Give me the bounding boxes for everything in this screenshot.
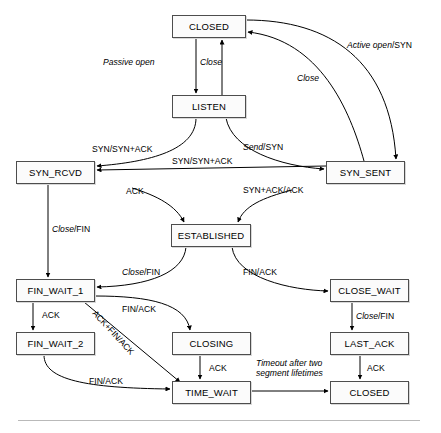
edge-label-close-listen: Close bbox=[200, 58, 222, 68]
state-box-established[interactable]: ESTABLISHED bbox=[171, 224, 251, 247]
edge-label-action: /SYN bbox=[263, 142, 283, 152]
edge-label-fin-ack-closing: FIN/ACK bbox=[122, 305, 156, 315]
edge-label-timeout-two-msl: Timeout after twosegment lifetimes bbox=[256, 359, 342, 378]
edge-label-ack-finwait: ACK bbox=[42, 311, 60, 321]
edge-label-event: Close bbox=[297, 73, 319, 83]
edge-synsent-to-synrcvd bbox=[97, 166, 326, 170]
edge-label-action: SYN/SYN+ACK bbox=[172, 156, 232, 166]
edge-label-active-open-syn: Active open/SYN bbox=[347, 41, 412, 51]
edge-label-action: ACK bbox=[367, 363, 385, 373]
footer-rule bbox=[18, 420, 420, 421]
edge-label-event: Close bbox=[356, 311, 378, 321]
edge-label-action: /FIN bbox=[378, 311, 394, 321]
edge-label-close-fin-left: Close/FIN bbox=[52, 225, 90, 235]
edge-label-event: Close bbox=[200, 57, 222, 67]
state-box-fin-wait-2[interactable]: FIN_WAIT_2 bbox=[16, 332, 95, 355]
edge-label-send-syn: Send/SYN bbox=[243, 143, 283, 153]
edge-label-event: Active open bbox=[347, 40, 392, 50]
edge-label-action: FIN/ACK bbox=[122, 304, 156, 314]
edge-label-action: /FIN bbox=[74, 224, 90, 234]
state-box-listen[interactable]: LISTEN bbox=[172, 95, 246, 118]
edge-label-synack-ack: SYN+ACK/ACK bbox=[243, 186, 303, 196]
state-box-syn-rcvd[interactable]: SYN_RCVD bbox=[16, 161, 95, 184]
edge-label-action: ACK bbox=[42, 310, 60, 320]
edge-label-action: SYN/SYN+ACK bbox=[92, 144, 152, 154]
state-box-close-wait[interactable]: CLOSE_WAIT bbox=[330, 279, 409, 302]
edge-label-action: /FIN bbox=[144, 267, 160, 277]
state-box-closed-top[interactable]: CLOSED bbox=[172, 15, 246, 38]
edge-label-event: Close bbox=[122, 267, 144, 277]
edge-label-event: Close bbox=[52, 224, 74, 234]
edge-label-syn-synack-upper: SYN/SYN+ACK bbox=[92, 145, 152, 155]
edge-label-passive-open: Passive open bbox=[103, 58, 155, 68]
state-box-closed-bottom[interactable]: CLOSED bbox=[330, 381, 409, 404]
edge-label-action: ACK bbox=[126, 186, 144, 196]
edge-label-event: Send bbox=[243, 142, 263, 152]
edge-label-ack-lastack: ACK bbox=[367, 364, 385, 374]
edge-label-close-synsent: Close bbox=[297, 74, 319, 84]
edge-label-action: SYN+ACK/ACK bbox=[243, 185, 303, 195]
edge-label-syn-synack-lower: SYN/SYN+ACK bbox=[172, 157, 232, 167]
edge-label-action: FIN/ACK bbox=[89, 376, 123, 386]
edge-label-fin-ack-bottom: FIN/ACK bbox=[89, 377, 123, 387]
state-box-fin-wait-1[interactable]: FIN_WAIT_1 bbox=[16, 279, 95, 302]
edge-label-action: FIN/ACK bbox=[243, 267, 277, 277]
edge-label-line: segment lifetimes bbox=[256, 369, 342, 379]
edge-label-close-fin-right: Close/FIN bbox=[356, 312, 394, 322]
edge-label-action: ACK bbox=[209, 363, 227, 373]
edge-label-close-fin-estab: Close/FIN bbox=[122, 268, 160, 278]
edge-label-ack-closing: ACK bbox=[209, 364, 227, 374]
edge-label-event: Passive open bbox=[103, 57, 155, 67]
state-box-syn-sent[interactable]: SYN_SENT bbox=[326, 161, 405, 184]
edge-label-ack-to-estab: ACK bbox=[126, 187, 144, 197]
state-box-time-wait[interactable]: TIME_WAIT bbox=[172, 381, 251, 404]
edge-label-fin-ack-estab: FIN/ACK bbox=[243, 268, 277, 278]
state-box-closing[interactable]: CLOSING bbox=[172, 332, 251, 355]
state-box-last-ack[interactable]: LAST_ACK bbox=[330, 332, 409, 355]
edge-label-action: /SYN bbox=[392, 40, 412, 50]
